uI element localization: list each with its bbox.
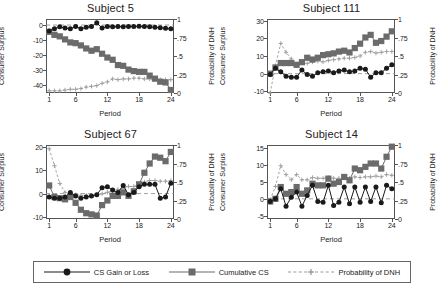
data-point bbox=[299, 59, 305, 65]
data-point bbox=[321, 176, 325, 180]
data-point bbox=[79, 86, 83, 90]
data-point bbox=[273, 66, 278, 71]
x-axis-tickmark bbox=[171, 93, 172, 96]
chart-panel-subject-5: Subject 5 Consumer Surplus Probability o… bbox=[0, 0, 221, 127]
data-point bbox=[341, 174, 347, 180]
y-axis-tickmark-right bbox=[174, 38, 177, 39]
data-point bbox=[283, 60, 289, 66]
y-axis-label-left: Consumer Surplus bbox=[0, 71, 10, 145]
data-point bbox=[131, 24, 136, 29]
data-point bbox=[368, 32, 374, 38]
data-point bbox=[121, 77, 125, 81]
data-point bbox=[110, 193, 116, 199]
data-point bbox=[58, 89, 62, 93]
legend-label: CS Gain or Loss bbox=[94, 268, 149, 277]
data-point bbox=[137, 184, 142, 189]
x-axis-tickmark bbox=[360, 219, 361, 222]
data-point bbox=[389, 186, 394, 191]
data-point bbox=[331, 58, 335, 62]
data-point bbox=[294, 190, 299, 195]
y-axis-tick-right: .75 bbox=[177, 34, 187, 41]
data-point bbox=[152, 153, 158, 159]
series-layer bbox=[267, 19, 395, 93]
x-axis-tick: 12 bbox=[324, 222, 332, 229]
data-point bbox=[63, 195, 68, 200]
y-axis-tickmark-right bbox=[174, 182, 177, 183]
data-point bbox=[342, 68, 347, 73]
data-point bbox=[121, 183, 126, 188]
y-axis-tick-right: 1 bbox=[177, 142, 181, 149]
y-axis-tickmark-right bbox=[395, 164, 398, 165]
legend-item-probability-of-dnh: Probability of DNH bbox=[288, 267, 400, 277]
y-axis-tick-right: .5 bbox=[177, 179, 183, 186]
data-point bbox=[320, 52, 326, 58]
data-point bbox=[63, 88, 67, 92]
data-point bbox=[94, 192, 99, 197]
data-point bbox=[73, 24, 78, 29]
data-point bbox=[278, 69, 283, 74]
y-axis-tick-right: .75 bbox=[177, 160, 187, 167]
data-point bbox=[294, 75, 299, 80]
data-point bbox=[268, 72, 273, 77]
data-point bbox=[326, 68, 331, 73]
data-point bbox=[126, 24, 131, 29]
data-point bbox=[373, 185, 378, 190]
data-point bbox=[88, 211, 94, 217]
data-point bbox=[379, 70, 384, 75]
data-point bbox=[373, 70, 378, 75]
data-point bbox=[68, 87, 72, 91]
data-point bbox=[288, 189, 294, 195]
legend-marker-square-icon bbox=[169, 267, 215, 277]
x-axis-tick: 24 bbox=[167, 222, 175, 229]
data-point bbox=[78, 196, 83, 201]
y-axis-label-right: Probability of DNH bbox=[429, 0, 441, 19]
x-axis-tick: 1 bbox=[268, 96, 272, 103]
data-point bbox=[121, 24, 126, 29]
data-point bbox=[126, 77, 130, 81]
data-point bbox=[383, 34, 389, 40]
data-point bbox=[294, 62, 300, 68]
data-point bbox=[83, 210, 89, 216]
data-point bbox=[120, 63, 126, 69]
data-point bbox=[289, 75, 294, 80]
data-point bbox=[331, 203, 336, 208]
y-axis-tick-left: 15 bbox=[256, 145, 264, 152]
data-point bbox=[331, 181, 337, 187]
data-point bbox=[384, 66, 389, 71]
x-axis-label: Period bbox=[46, 109, 174, 118]
data-point bbox=[363, 175, 367, 179]
data-point bbox=[389, 144, 395, 150]
x-axis-tick: 12 bbox=[103, 96, 111, 103]
y-axis-tick-right: .75 bbox=[398, 160, 408, 167]
x-axis-tick: 1 bbox=[47, 222, 51, 229]
data-point bbox=[299, 191, 305, 197]
data-point bbox=[100, 26, 105, 31]
y-axis-tickmark-right bbox=[174, 145, 177, 146]
data-point bbox=[368, 199, 373, 204]
data-point bbox=[347, 69, 352, 74]
data-point bbox=[352, 68, 357, 73]
data-point bbox=[305, 178, 309, 182]
data-point bbox=[58, 181, 62, 185]
data-point bbox=[341, 48, 347, 54]
data-point bbox=[105, 24, 110, 29]
data-point bbox=[110, 188, 115, 193]
data-point bbox=[89, 24, 94, 29]
y-axis-tickmark-right bbox=[395, 201, 398, 202]
y-axis-tick-right: 0 bbox=[177, 90, 181, 97]
data-point bbox=[78, 42, 84, 48]
x-axis-tickmark bbox=[76, 219, 77, 222]
data-point bbox=[368, 75, 373, 80]
data-point bbox=[384, 49, 388, 53]
y-axis-label-left: Consumer Surplus bbox=[219, 0, 231, 19]
data-point bbox=[337, 57, 341, 61]
x-axis-tickmark bbox=[139, 93, 140, 96]
data-point bbox=[116, 77, 120, 81]
data-point bbox=[390, 49, 394, 53]
x-axis-label: Period bbox=[267, 235, 395, 244]
legend-label: Probability of DNH bbox=[338, 268, 400, 277]
data-point bbox=[62, 36, 68, 42]
data-point bbox=[132, 184, 136, 188]
data-point bbox=[168, 26, 173, 31]
x-axis-tick: 18 bbox=[135, 96, 143, 103]
